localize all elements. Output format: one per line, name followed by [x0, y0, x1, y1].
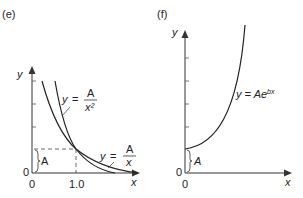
x-origin-label: 0: [182, 178, 188, 190]
brace-icon: [187, 150, 192, 172]
brace-label-a: A: [193, 155, 201, 167]
eq-e1-equals: =: [72, 93, 78, 105]
x-tick-label-1: 1.0: [69, 178, 84, 190]
eq-e2-equals: =: [110, 150, 116, 162]
brace-label-a: A: [41, 155, 49, 167]
leader-line: [62, 107, 70, 116]
y-axis-arrow-icon: [182, 30, 189, 38]
panel-f-label: (f): [157, 8, 167, 20]
y-axis-label: y: [171, 26, 179, 38]
eq-e1-y: y: [61, 93, 69, 105]
x-axis-label: x: [130, 176, 137, 188]
x-axis-label: x: [284, 176, 291, 188]
curve-exponential: [185, 25, 245, 149]
x-origin-label: 0: [29, 178, 35, 190]
eq-e2-num: A: [126, 143, 134, 155]
y-axis-arrow-icon: [29, 66, 36, 74]
eq-f-text: y = Aebx: [235, 88, 275, 100]
eq-e1-den: x²: [84, 101, 95, 113]
y-origin-label: 0: [23, 166, 29, 178]
brace-icon: [35, 150, 40, 172]
eq-e2-den: x: [125, 156, 132, 168]
y-origin-label: 0: [176, 166, 182, 178]
y-axis-label: y: [16, 68, 24, 80]
eq-e1-num: A: [87, 87, 95, 99]
panel-e: (e) A y = A x² y = A x: [2, 8, 140, 190]
panel-f: (f) A y = Aebx y x 0 0: [157, 8, 292, 190]
eq-e2-y: y: [99, 150, 107, 162]
figure-canvas: (e) A y = A x² y = A x: [0, 0, 303, 198]
panel-e-label: (e): [2, 8, 15, 20]
